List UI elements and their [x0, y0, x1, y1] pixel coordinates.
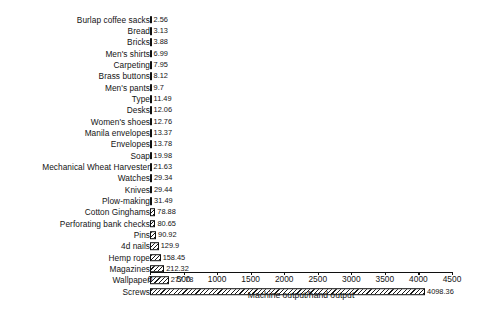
bar-fill — [150, 231, 156, 239]
bar-fill — [150, 242, 159, 250]
bar-value-label: 31.49 — [153, 197, 173, 204]
bar-category-label: Plow-making — [102, 197, 150, 205]
bar-row: Plow-making31.49 — [0, 195, 482, 206]
bar-row: Brass buttons8.12 — [0, 71, 482, 82]
bar-row: Women's shoes12.76 — [0, 116, 482, 127]
bar-category-label: 4d nails — [121, 242, 150, 250]
bar-category-label: Brass buttons — [99, 72, 150, 80]
bar-row: Soap19.98 — [0, 150, 482, 161]
bar-value-label: 158.45 — [161, 254, 185, 261]
bar-fill — [150, 208, 155, 216]
x-axis-line — [150, 272, 452, 273]
bar-category-label: Bread — [128, 27, 150, 35]
bar-row: Manila envelopes13.37 — [0, 127, 482, 138]
bar-fill — [150, 220, 155, 228]
bar-row: Men's pants9.7 — [0, 82, 482, 93]
bar-row: Desks12.06 — [0, 105, 482, 116]
bar-category-label: Bricks — [127, 38, 150, 46]
bar-row: Bricks3.88 — [0, 37, 482, 48]
bar-row: Cotton Ginghams78.88 — [0, 207, 482, 218]
bar-value-label: 12.76 — [152, 118, 172, 125]
x-axis-tick-label: 3000 — [342, 275, 361, 283]
bar-row: Envelopes13.78 — [0, 139, 482, 150]
bar-row: Men's shirts6.99 — [0, 48, 482, 59]
bar-category-label: Screws — [123, 287, 151, 295]
bar-row: Mechanical Wheat Harvester21.63 — [0, 161, 482, 172]
bar-category-label: Men's pants — [105, 84, 150, 92]
bar-category-label: Desks — [127, 106, 150, 114]
bar-category-label: Burlap coffee sacks — [77, 16, 150, 24]
bar-category-label: Pins — [134, 231, 150, 239]
x-axis-tick-label: 1000 — [208, 275, 227, 283]
bar-value-label: 2.56 — [152, 16, 168, 23]
x-axis-tick-label: 2500 — [308, 275, 327, 283]
bar-value-label: 13.37 — [152, 129, 172, 136]
bar-row: Pins90.92 — [0, 229, 482, 240]
bar — [150, 220, 155, 228]
bar-row: Watches29.34 — [0, 173, 482, 184]
bar-value-label: 29.34 — [152, 175, 172, 182]
bar-category-label: Manila envelopes — [85, 129, 150, 137]
bar-value-label: 129.9 — [159, 243, 179, 250]
bar — [150, 276, 169, 284]
bar-chart-plot-area: Burlap coffee sacks2.56Bread3.13Bricks3.… — [0, 0, 482, 318]
bar-category-label: Watches — [118, 174, 150, 182]
bar-category-label: Cotton Ginghams — [85, 208, 150, 216]
bar-category-label: Wallpaper — [113, 276, 151, 284]
bar-value-label: 78.88 — [156, 209, 176, 216]
bar-value-label: 8.12 — [152, 73, 168, 80]
bar — [150, 231, 156, 239]
x-axis-tick-label: 3500 — [376, 275, 395, 283]
x-axis-tick-label: 1500 — [241, 275, 260, 283]
bar-value-label: 6.99 — [152, 50, 168, 57]
bar-value-label: 13.78 — [152, 141, 172, 148]
bar-category-label: Carpeting — [114, 61, 150, 69]
bar-row: Carpeting7.95 — [0, 59, 482, 70]
bar-value-label: 19.98 — [152, 152, 172, 159]
bar-row: Bread3.13 — [0, 26, 482, 37]
bar-category-label: Knives — [125, 185, 150, 193]
bar-category-label: Soap — [130, 152, 150, 160]
bar-value-label: 12.06 — [152, 107, 172, 114]
bar-row: Burlap coffee sacks2.56 — [0, 14, 482, 25]
bar-category-label: Magazines — [109, 265, 150, 273]
bar-value-label: 80.65 — [156, 220, 176, 227]
bar-value-label: 3.88 — [152, 39, 168, 46]
x-axis-tick-label: 4500 — [443, 275, 462, 283]
bar-row: Knives29.44 — [0, 184, 482, 195]
bar-value-label: 7.95 — [152, 61, 168, 68]
x-axis-tick-label: 4000 — [409, 275, 428, 283]
x-axis-title: Machine output/hand output — [150, 291, 452, 300]
bar — [150, 208, 155, 216]
bar-row: Perforating bank checks80.65 — [0, 218, 482, 229]
bar — [150, 242, 159, 250]
bar-category-label: Hemp rope — [109, 253, 151, 261]
x-axis-tick-label: 500 — [177, 275, 191, 283]
bar-category-label: Type — [132, 95, 150, 103]
x-axis-tick-label: 2000 — [275, 275, 294, 283]
bar-value-label: 9.7 — [152, 84, 164, 91]
bar-row: Magazines212.32 — [0, 263, 482, 274]
x-axis-tick-label: 0 — [148, 275, 153, 283]
bar-category-label: Perforating bank checks — [60, 219, 150, 227]
chart-figure: Burlap coffee sacks2.56Bread3.13Bricks3.… — [0, 0, 482, 318]
bar-category-label: Envelopes — [111, 140, 150, 148]
bar-value-label: 3.13 — [152, 27, 168, 34]
bar-value-label: 21.63 — [152, 163, 172, 170]
bar-category-label: Mechanical Wheat Harvester — [42, 163, 150, 171]
bar-category-label: Women's shoes — [91, 118, 150, 126]
bar-row: 4d nails129.9 — [0, 241, 482, 252]
bar-value-label: 90.92 — [157, 231, 177, 238]
bar-fill — [150, 254, 161, 262]
bar-row: Hemp rope158.45 — [0, 252, 482, 263]
bar — [150, 254, 161, 262]
bar-row: Type11.49 — [0, 93, 482, 104]
bar-value-label: 29.44 — [152, 186, 172, 193]
bar-fill — [150, 276, 169, 284]
bar-value-label: 11.49 — [152, 95, 171, 102]
bar-category-label: Men's shirts — [105, 50, 150, 58]
